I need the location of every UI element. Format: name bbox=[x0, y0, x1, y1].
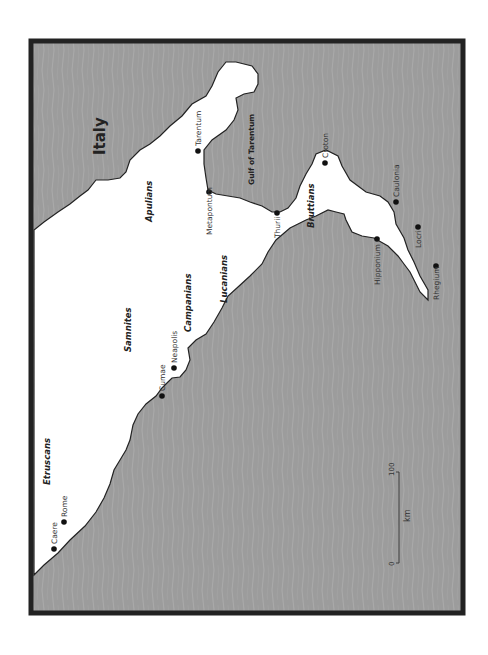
scale-unit-label: km bbox=[403, 509, 412, 522]
city-rhegium: Rhegium bbox=[432, 263, 441, 300]
map-title: Italy bbox=[91, 117, 109, 155]
city-metapontum: Metapontum bbox=[205, 187, 214, 235]
svg-text:Locri: Locri bbox=[414, 230, 423, 248]
svg-text:Croton: Croton bbox=[321, 133, 330, 158]
people-label-samnites: Samnites bbox=[123, 307, 133, 352]
svg-text:Neapolis: Neapolis bbox=[170, 331, 179, 363]
svg-text:Tarentum: Tarentum bbox=[194, 111, 203, 147]
svg-text:Thurii: Thurii bbox=[273, 217, 282, 239]
svg-text:Metapontum: Metapontum bbox=[205, 187, 214, 235]
water-label-gulf-of-tarentum: Gulf of Tarentum bbox=[247, 114, 256, 185]
svg-text:Rhegium: Rhegium bbox=[432, 267, 441, 300]
map-of-southern-italy: Italy Gulf of Tarentum Etruscans Samnite… bbox=[0, 0, 488, 655]
svg-text:Cumae: Cumae bbox=[158, 364, 167, 391]
people-label-lucanians: Lucanians bbox=[219, 255, 229, 303]
svg-text:Hipponium: Hipponium bbox=[373, 244, 382, 285]
scale-end-label: 100 bbox=[388, 463, 396, 476]
people-label-apulians: Apulians bbox=[144, 181, 154, 223]
svg-text:Caulonia: Caulonia bbox=[392, 164, 401, 197]
people-label-bruttians: Bruttians bbox=[306, 183, 316, 228]
people-label-etruscans: Etruscans bbox=[42, 438, 52, 485]
scale-start-label: 0 bbox=[388, 562, 396, 566]
people-label-campanians: Campanians bbox=[183, 274, 193, 332]
svg-text:Caere: Caere bbox=[50, 522, 59, 544]
svg-text:Rome: Rome bbox=[60, 495, 69, 517]
